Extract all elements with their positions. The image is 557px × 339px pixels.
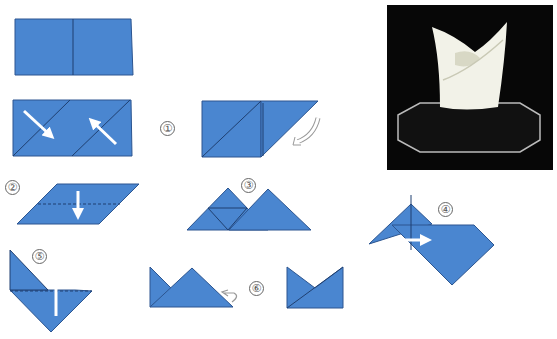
step-number-4: ④ xyxy=(438,202,453,217)
diagram-rectangle-diagonals xyxy=(13,100,132,156)
step-number-1: ① xyxy=(160,121,175,136)
diagram-parallelogram xyxy=(17,184,139,224)
diagram-final xyxy=(287,267,343,308)
diagram-triangles xyxy=(187,188,311,230)
step-number-5: ⑤ xyxy=(32,249,47,264)
folding-diagram xyxy=(0,0,557,339)
step-number-6: ⑥ xyxy=(249,281,264,296)
step-number-2: ② xyxy=(5,180,20,195)
napkin-photo xyxy=(387,5,553,170)
diagram-step4 xyxy=(369,195,494,285)
diagram-rectangle xyxy=(15,19,133,75)
diagram-step6 xyxy=(150,267,237,307)
diagram-step5 xyxy=(10,250,92,332)
diagram-step1-result xyxy=(202,101,318,157)
step-number-3: ③ xyxy=(241,178,256,193)
